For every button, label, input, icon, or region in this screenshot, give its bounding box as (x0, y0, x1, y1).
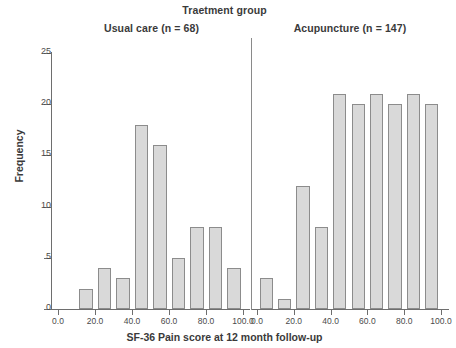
x-tick-label: 80.0 (389, 316, 419, 326)
x-tick-mark (243, 310, 244, 315)
y-tick-label: 20 (11, 97, 51, 107)
panel-divider (251, 38, 252, 310)
x-tick-mark (58, 310, 59, 315)
histogram-bar (227, 268, 241, 309)
y-tick: 5 (0, 258, 51, 259)
x-tick-label: 80.0 (191, 316, 221, 326)
histogram-bar (153, 145, 167, 309)
histogram-bar (388, 104, 401, 309)
x-tick-mark (257, 310, 258, 315)
histogram-bar (333, 94, 346, 309)
histogram-bar (278, 299, 291, 309)
y-tick-label: 10 (11, 200, 51, 210)
histogram-bar (315, 227, 328, 309)
x-tick-label: 40.0 (316, 316, 346, 326)
x-tick-mark (169, 310, 170, 315)
histogram-bar (135, 125, 149, 310)
x-tick-label: 40.0 (117, 316, 147, 326)
histogram-bar (98, 268, 112, 309)
y-tick: 25 (0, 53, 51, 54)
x-tick-mark (367, 310, 368, 315)
histogram-bar (370, 94, 383, 309)
x-tick-mark (132, 310, 133, 315)
histogram-bar (116, 278, 130, 309)
y-tick-label: 15 (11, 148, 51, 158)
x-tick-mark (206, 310, 207, 315)
histogram-bar (172, 258, 186, 309)
histogram-bar (209, 227, 223, 309)
y-tick: 20 (0, 104, 51, 105)
histogram-bar (407, 94, 420, 309)
x-tick-mark (441, 310, 442, 315)
x-tick-label: 20.0 (80, 316, 110, 326)
histogram-bar (260, 278, 273, 309)
y-tick: 10 (0, 207, 51, 208)
x-tick-mark (95, 310, 96, 315)
x-tick-mark (294, 310, 295, 315)
x-axis-line-right (252, 309, 449, 310)
panel-title-usual-care: Usual care (n = 68) (52, 22, 251, 34)
x-tick-label: 0.0 (43, 316, 73, 326)
y-tick: 0 (0, 309, 51, 310)
y-tick: 15 (0, 155, 51, 156)
histogram-bar (425, 104, 438, 309)
x-tick-mark (404, 310, 405, 315)
x-tick-label: 0.0 (242, 316, 272, 326)
x-axis-line-left (44, 309, 250, 310)
y-tick-label: 25 (11, 46, 51, 56)
x-tick-mark (331, 310, 332, 315)
histogram-bar (190, 227, 204, 309)
x-tick-label: 20.0 (279, 316, 309, 326)
y-tick-label: 5 (11, 251, 51, 261)
panel-title-acupuncture: Acupuncture (n = 147) (251, 22, 449, 34)
x-tick-label: 60.0 (352, 316, 382, 326)
y-tick-label: 0 (11, 302, 51, 312)
histogram-bar (352, 104, 365, 309)
figure-super-title: Traetment group (0, 4, 449, 16)
y-axis-line (51, 52, 52, 310)
x-tick-label: 100.0 (426, 316, 456, 326)
histogram-bar (296, 186, 309, 309)
x-tick-label: 60.0 (154, 316, 184, 326)
histogram-bar (79, 289, 93, 310)
x-axis-title: SF-36 Pain score at 12 month follow-up (0, 331, 449, 343)
